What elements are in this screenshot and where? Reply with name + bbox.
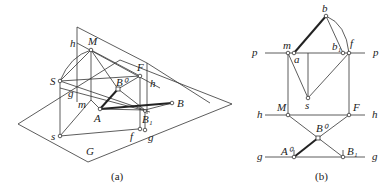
- panel-b: b p p m a b₁ f s h M F h B⁰ g A⁰ B₁ g (b…: [251, 2, 379, 183]
- point-B1: [341, 155, 345, 159]
- point-B: [170, 101, 174, 105]
- caption-b: (b): [315, 170, 328, 183]
- line-M-B0: [91, 50, 118, 89]
- line-S-M: [60, 50, 91, 81]
- label-F: F: [136, 61, 144, 73]
- label-f: f: [350, 37, 355, 49]
- line-S-F: [60, 76, 140, 81]
- label-s: s: [305, 99, 309, 111]
- point-f: [347, 51, 351, 55]
- line-s-f: [60, 129, 138, 136]
- label-F: F: [352, 101, 360, 113]
- point-M: [286, 113, 290, 117]
- point-B0: [316, 136, 320, 140]
- label-p-right: p: [372, 46, 379, 58]
- label-f: f: [130, 130, 135, 142]
- point-b: [324, 14, 328, 18]
- label-h-right: h: [372, 108, 378, 120]
- label-A0: A⁰: [280, 145, 294, 157]
- point-A0: [292, 155, 296, 159]
- label-m: m: [78, 98, 86, 110]
- label-g-left: g: [68, 87, 74, 99]
- label-B: B: [177, 97, 184, 109]
- label-g-right: g: [372, 150, 378, 162]
- label-h-left: h: [257, 108, 263, 120]
- line-M-F: [91, 50, 140, 76]
- label-B1: B₁: [142, 113, 153, 125]
- label-g-right: g: [148, 131, 154, 143]
- point-A: [98, 107, 102, 111]
- line-s-m: [60, 100, 91, 136]
- label-B0: B⁰: [116, 76, 129, 88]
- descriptive-geometry-figure: h M S F h B⁰ g m A B B₁ s f g G (a): [0, 0, 387, 195]
- label-M: M: [276, 101, 287, 113]
- line-s-f: [308, 53, 349, 98]
- label-M: M: [87, 35, 98, 47]
- label-p-left: p: [251, 46, 258, 58]
- point-S: [58, 79, 62, 83]
- label-h-top: h: [70, 37, 76, 49]
- label-g-left: g: [257, 150, 263, 162]
- caption-a: (a): [111, 170, 124, 183]
- point-M: [89, 48, 93, 52]
- label-S: S: [50, 75, 56, 87]
- panel-a: h M S F h B⁰ g m A B B₁ s f g G (a): [18, 27, 232, 183]
- segment-b-a: [294, 16, 326, 53]
- label-h-right: h: [150, 77, 156, 89]
- label-a: a: [294, 53, 300, 65]
- segment-A0-B0: [294, 138, 318, 157]
- label-b: b: [322, 2, 328, 14]
- label-G: G: [86, 145, 94, 157]
- label-m: m: [283, 39, 291, 51]
- label-B0: B⁰: [316, 122, 329, 134]
- label-b1: b₁: [332, 40, 342, 52]
- point-s: [58, 134, 62, 138]
- point-F: [347, 113, 351, 117]
- label-B1: B₁: [347, 145, 358, 157]
- point-f: [138, 127, 142, 131]
- label-A: A: [93, 112, 101, 124]
- point-g: [143, 128, 147, 132]
- label-s: s: [51, 130, 55, 142]
- point-m: [286, 51, 290, 55]
- point-b1: [341, 51, 345, 55]
- point-F: [138, 74, 142, 78]
